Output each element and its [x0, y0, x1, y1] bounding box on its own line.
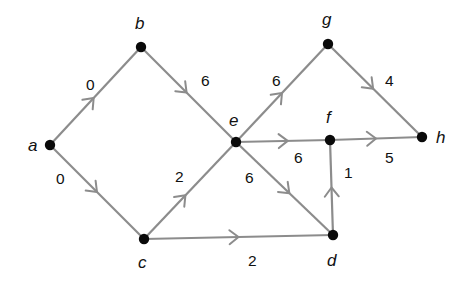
edge-weight-a-c: 0 [56, 170, 65, 187]
node-label-h: h [436, 128, 445, 147]
edge-line [144, 142, 236, 239]
edge-g-h [328, 44, 422, 137]
edge-weight-b-e: 6 [201, 72, 210, 89]
node-e: e [229, 111, 241, 147]
node-a: a [28, 136, 55, 155]
node-dot [323, 39, 333, 49]
edge-weight-a-b: 0 [86, 76, 95, 93]
node-b: b [135, 14, 146, 52]
edge-line [141, 47, 236, 142]
edge-e-d [236, 142, 333, 235]
edge-weight-d-f: 1 [344, 164, 353, 181]
nodes-layer: abcegfhd [28, 10, 445, 272]
weighted-directed-graph: 00622666154 abcegfhd [0, 0, 467, 290]
node-d: d [327, 230, 338, 270]
node-h: h [417, 128, 446, 147]
edge-a-b [50, 47, 141, 145]
node-g: g [322, 10, 333, 49]
edge-weight-f-h: 5 [385, 149, 394, 166]
edge-weight-e-d: 6 [245, 169, 254, 186]
edge-weights-layer: 00622666154 [56, 72, 394, 269]
edge-weight-c-d: 2 [248, 252, 257, 269]
edge-b-e [141, 47, 236, 142]
node-dot [328, 230, 338, 240]
edge-weight-e-f: 6 [294, 149, 303, 166]
edge-d-f [325, 140, 339, 235]
node-dot [136, 42, 146, 52]
edge-a-c [50, 145, 144, 239]
node-label-d: d [327, 251, 337, 270]
node-f: f [325, 108, 335, 145]
edge-line [236, 140, 330, 142]
node-label-e: e [229, 111, 238, 130]
node-dot [231, 137, 241, 147]
edge-e-g [236, 44, 328, 142]
node-dot [139, 234, 149, 244]
edge-f-h [330, 132, 422, 146]
edge-line [328, 44, 422, 137]
edge-c-e [144, 142, 236, 239]
edge-line [236, 142, 333, 235]
node-label-g: g [322, 10, 332, 29]
edge-c-d [144, 230, 333, 244]
edge-e-f [236, 134, 330, 148]
edge-weight-e-g: 6 [272, 72, 281, 89]
node-label-f: f [326, 108, 333, 127]
node-dot [417, 132, 427, 142]
node-dot [325, 135, 335, 145]
edge-weight-g-h: 4 [385, 72, 394, 89]
node-label-c: c [138, 253, 147, 272]
node-c: c [138, 234, 149, 272]
node-label-a: a [28, 136, 37, 155]
node-dot [45, 140, 55, 150]
edge-weight-c-e: 2 [175, 168, 184, 185]
node-label-b: b [135, 14, 144, 33]
edge-line [50, 47, 141, 145]
